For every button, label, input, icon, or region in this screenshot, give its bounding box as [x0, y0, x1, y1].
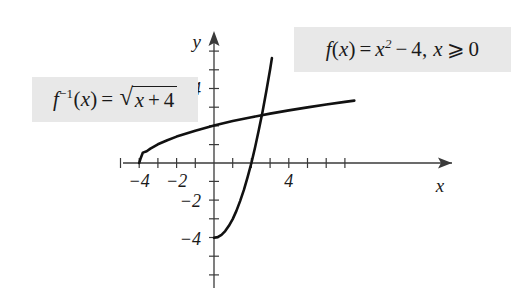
comma-separator: ,: [422, 37, 433, 61]
variable-x-inverse: x: [81, 87, 91, 111]
radicand: x+4: [132, 86, 177, 114]
exponent-two: 2: [385, 36, 392, 51]
radical-group: √x+4: [120, 86, 177, 114]
x-tick-label-neg4: −4: [129, 171, 150, 191]
y-tick-label-neg4: −4: [180, 229, 201, 249]
f-of-x-label: f(x)=x2−4,x⩾0: [294, 27, 511, 72]
base-x: x: [375, 37, 385, 61]
parabola-curve-f: [214, 58, 272, 238]
domain-variable: x: [433, 37, 443, 61]
plus-sign: +: [144, 88, 164, 112]
radicand-variable: x: [135, 88, 145, 112]
y-axis-label: y: [191, 31, 202, 52]
x-tick-label-neg2: −2: [166, 171, 187, 191]
x-tick-label-4: 4: [284, 171, 293, 191]
figure-canvas: −4 −2 4 4 −2 −4 x y f(x)=x2−4,x⩾0 f−1(x)…: [0, 0, 514, 297]
greater-equal-sign: ⩾: [443, 37, 469, 61]
variable-x: x: [339, 37, 349, 61]
f-inverse-label: f−1(x)=√x+4: [32, 77, 198, 122]
close-paren: ): [349, 37, 356, 61]
f-of-x-expression: f(x)=x2−4,x⩾0: [326, 37, 479, 62]
constant-four: 4: [411, 37, 422, 61]
minus-sign: −: [392, 37, 412, 61]
x-axis-label: x: [435, 175, 445, 196]
inverse-exponent: −1: [59, 86, 74, 101]
equals-sign-inverse: =: [98, 87, 118, 111]
equals-sign: =: [356, 37, 376, 61]
open-paren: (: [332, 37, 339, 61]
close-paren-inverse: ): [90, 87, 97, 111]
domain-bound-zero: 0: [468, 37, 479, 61]
f-inverse-expression: f−1(x)=√x+4: [53, 86, 177, 114]
radicand-constant: 4: [164, 88, 175, 112]
radical-sign-icon: √: [120, 85, 134, 113]
y-tick-label-neg2: −2: [180, 191, 201, 211]
open-paren-inverse: (: [74, 87, 81, 111]
